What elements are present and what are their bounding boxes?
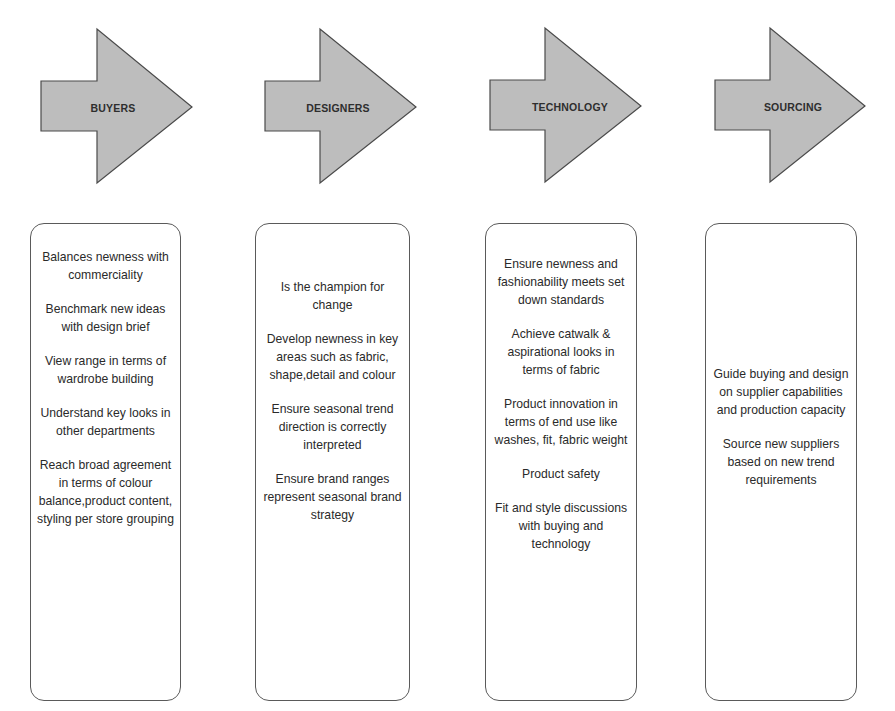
stage-label-technology: TECHNOLOGY [510,101,630,113]
technology-item: Product safety [522,465,600,483]
stage-label-sourcing: SOURCING [733,101,853,113]
stage-label-buyers: BUYERS [53,102,173,114]
sourcing-responsibilities-box: Guide buying and design on supplier capa… [705,223,857,701]
sourcing-item: Source new suppliers based on new trend … [711,435,851,489]
designers-item: Is the champion for change [261,278,404,314]
buyers-item: Benchmark new ideas with design brief [36,300,175,336]
designers-item: Ensure brand ranges represent seasonal b… [261,470,404,524]
stage-label-designers: DESIGNERS [278,102,398,114]
buyers-responsibilities-box: Balances newness with commerciality Benc… [30,223,181,701]
designers-item: Develop newness in key areas such as fab… [261,330,404,384]
buyers-item: Reach broad agreement in terms of colour… [36,456,175,528]
technology-item: Fit and style discussions with buying an… [491,499,631,553]
buyers-item: Balances newness with commerciality [36,248,175,284]
arrow-row [0,0,895,200]
sourcing-item: Guide buying and design on supplier capa… [711,365,851,419]
technology-item: Ensure newness and fashionability meets … [491,255,631,309]
technology-responsibilities-box: Ensure newness and fashionability meets … [485,223,637,701]
technology-item: Achieve catwalk & aspirational looks in … [491,325,631,379]
buyers-item: Understand key looks in other department… [36,404,175,440]
technology-item: Product innovation in terms of end use l… [491,395,631,449]
designers-responsibilities-box: Is the champion for change Develop newne… [255,223,410,701]
designers-item: Ensure seasonal trend direction is corre… [261,400,404,454]
buyers-item: View range in terms of wardrobe building [36,352,175,388]
